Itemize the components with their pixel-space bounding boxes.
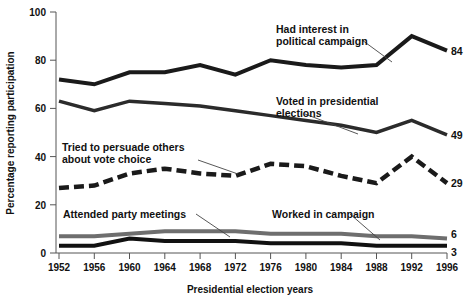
x-tick-label-1956: 1956 — [83, 262, 106, 273]
annotation-labels: Had interest in political campaign Voted… — [62, 23, 379, 220]
series-line-3 — [59, 231, 447, 238]
y-tick-label-60: 60 — [35, 103, 47, 114]
x-axis-title: Presidential election years — [187, 284, 314, 295]
leader-line-persuade — [198, 160, 238, 174]
y-axis-title: Percentage reporting participation — [5, 51, 16, 214]
label-voted-line1: Voted in presidential — [276, 95, 379, 107]
x-axis-ticks — [59, 253, 447, 259]
label-worked-in-campaign: Worked in campaign — [272, 208, 375, 220]
end-value-persuade: 29 — [451, 177, 463, 189]
y-axis-ticks — [50, 12, 56, 253]
x-tick-label-1992: 1992 — [401, 262, 424, 273]
chart-container: 100 80 60 40 20 0 1952 1956 1960 1964 19… — [0, 0, 468, 307]
x-tick-label-1996: 1996 — [436, 262, 459, 273]
x-tick-label-1972: 1972 — [224, 262, 247, 273]
leader-line-meetings — [196, 214, 230, 237]
end-value-attended: 6 — [451, 228, 457, 240]
series-line-1 — [59, 101, 447, 135]
x-tick-label-1964: 1964 — [154, 262, 177, 273]
y-tick-label-40: 40 — [35, 152, 47, 163]
x-tick-label-1952: 1952 — [48, 262, 71, 273]
x-tick-label-1976: 1976 — [259, 262, 282, 273]
end-value-voted: 49 — [451, 129, 463, 141]
x-tick-label-1988: 1988 — [365, 262, 388, 273]
x-tick-label-1980: 1980 — [295, 262, 318, 273]
label-voted-line2: elections — [276, 107, 322, 119]
y-tick-label-100: 100 — [29, 7, 46, 18]
end-value-labels: 84 49 29 6 3 — [451, 45, 463, 258]
series-line-4 — [59, 239, 447, 246]
x-tick-label-1968: 1968 — [189, 262, 212, 273]
end-value-had-interest: 84 — [451, 45, 463, 57]
end-value-worked: 3 — [451, 246, 457, 258]
y-tick-label-0: 0 — [40, 248, 46, 259]
label-persuade-line1: Tried to persuade others — [62, 141, 185, 153]
x-tick-label-1960: 1960 — [118, 262, 141, 273]
x-tick-label-1984: 1984 — [330, 262, 353, 273]
label-had-interest-line2: political campaign — [276, 35, 368, 47]
label-had-interest-line1: Had interest in — [276, 23, 349, 35]
y-tick-label-80: 80 — [35, 55, 47, 66]
y-tick-label-20: 20 — [35, 200, 47, 211]
line-chart: 100 80 60 40 20 0 1952 1956 1960 1964 19… — [0, 0, 468, 307]
label-attended-meetings: Attended party meetings — [63, 208, 186, 220]
label-persuade-line2: about vote choice — [62, 153, 151, 165]
